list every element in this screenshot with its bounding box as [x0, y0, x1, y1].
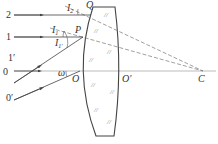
- label-ray-1: 1: [6, 31, 11, 42]
- label-ray-0: 0: [3, 66, 8, 77]
- label-angle-omega: ω: [58, 67, 65, 78]
- label-O-prime: O′: [122, 73, 132, 84]
- label-C: C: [198, 73, 205, 84]
- label-P: P: [74, 24, 81, 35]
- label-ray-1-prime: 1′: [8, 52, 15, 63]
- svg-text://: //: [109, 88, 115, 96]
- ray-1-prime-arrow: [14, 66, 40, 83]
- label-ray-0-prime: 0′: [6, 92, 13, 103]
- lens-hatching: // // // // // // // //: [88, 11, 115, 126]
- label-angle-I1: I1: [51, 24, 58, 36]
- lens: [83, 7, 119, 136]
- label-Q: Q: [86, 0, 94, 10]
- svg-text://: //: [106, 48, 112, 56]
- svg-text://: //: [93, 106, 99, 114]
- svg-text://: //: [90, 81, 96, 89]
- angle-arc-omega: [66, 71, 67, 77]
- angle-arc-I1-prime: [64, 31, 68, 48]
- label-ray-2: 2: [6, 9, 11, 20]
- normal-P-to-C: [50, 28, 203, 71]
- label-O: O: [72, 73, 79, 84]
- svg-text://: //: [106, 118, 112, 126]
- svg-text://: //: [88, 56, 94, 64]
- label-angle-I2: I2: [66, 2, 73, 14]
- svg-text://: //: [93, 27, 99, 35]
- svg-text://: //: [103, 11, 109, 19]
- label-angle-I1-prime: I1′: [54, 37, 63, 49]
- lens-refraction-diagram: // // // // // // // // Q P O O′ C 2 1 1…: [0, 0, 218, 144]
- ray-0-prime-arrow: [14, 88, 42, 100]
